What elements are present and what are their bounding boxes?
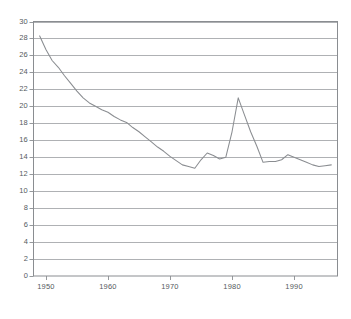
- y-axis-tick-label: 16: [2, 135, 28, 144]
- y-axis-tick-label: 14: [2, 152, 28, 161]
- plot-frame: [34, 22, 338, 277]
- chart-container: 024681012141618202224262830 195019601970…: [0, 0, 351, 319]
- y-axis-tick-label: 6: [2, 220, 28, 229]
- y-axis-tick-label: 8: [2, 203, 28, 212]
- y-axis-tick-label: 28: [2, 33, 28, 42]
- y-axis-tick-label: 18: [2, 118, 28, 127]
- y-axis-tick-label: 24: [2, 67, 28, 76]
- y-axis-tick-label: 20: [2, 101, 28, 110]
- y-axis-tick-label: 10: [2, 186, 28, 195]
- line-chart-plot: [0, 0, 351, 319]
- y-axis-tick-label: 4: [2, 237, 28, 246]
- x-axis-tick-label: 1950: [29, 282, 63, 291]
- y-axis-tick-label: 30: [2, 17, 28, 26]
- y-axis-tick-label: 22: [2, 84, 28, 93]
- x-axis-tick-label: 1990: [277, 282, 311, 291]
- y-axis-tick-label: 0: [2, 271, 28, 280]
- x-axis-tick-label: 1960: [91, 282, 125, 291]
- x-axis-tick-label: 1980: [215, 282, 249, 291]
- y-axis-tick-label: 2: [2, 254, 28, 263]
- y-axis-tick-label: 12: [2, 169, 28, 178]
- x-axis-tick-label: 1970: [153, 282, 187, 291]
- y-axis-tick-label: 26: [2, 50, 28, 59]
- x-tick-group: [47, 276, 295, 280]
- gridline-group: [34, 23, 338, 260]
- y-tick-group: [30, 23, 34, 277]
